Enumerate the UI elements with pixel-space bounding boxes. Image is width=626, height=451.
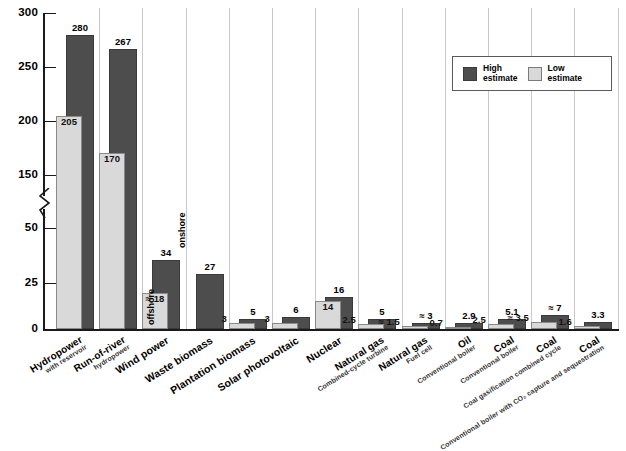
bar-value-label-high: 5 [250, 306, 255, 317]
chart-legend: High estimate Low estimate [452, 56, 612, 91]
legend-label-low-line2: estimate [548, 73, 583, 83]
bar-value-label-high: ≈ 7 [548, 302, 561, 313]
bar-value-label-low: 205 [61, 116, 77, 127]
legend-item-low: Low estimate [528, 64, 583, 83]
x-axis-category-label: Solar photovoltaic [215, 334, 301, 394]
axis-break-icon [36, 188, 54, 218]
bar-value-label-high: 267 [115, 36, 131, 47]
legend-item-high: High estimate [463, 64, 518, 83]
legend-swatch-high-icon [463, 67, 477, 81]
x-axis-category-labels: Hydropowerwith reservoirRun-of-riverhydr… [0, 330, 626, 432]
y-axis-tick-label: 50 [0, 221, 38, 233]
category-separator [142, 8, 143, 329]
y-axis-tick-label: 150 [0, 168, 38, 180]
bar-value-label-low: 170 [104, 153, 120, 164]
bar-value-label-low: 0.7 [429, 317, 443, 328]
bar-value-label-low: 14 [323, 301, 334, 312]
y-axis-tick-label: 200 [0, 114, 38, 126]
bar-low-estimate [99, 153, 125, 329]
category-separator [402, 8, 403, 329]
bar-value-label-low: 2.5 [342, 314, 356, 325]
bar-value-label-low: ≈ 3.5 [507, 312, 529, 323]
y-axis-tick-label: 250 [0, 60, 38, 72]
category-separator [186, 8, 187, 329]
bar-low-estimate [574, 326, 600, 329]
legend-label-low: Low estimate [548, 64, 583, 83]
legend-swatch-low-icon [528, 67, 542, 81]
bar-low-estimate [445, 327, 471, 329]
x-axis-baseline [43, 329, 619, 331]
bar-value-label-high: 3.3 [591, 309, 605, 320]
y-axis-tick-label: 25 [0, 276, 38, 288]
bar-low-estimate [402, 326, 428, 329]
bar-low-estimate [488, 324, 514, 329]
y-axis-spine [43, 13, 45, 196]
bar-low-estimate [531, 322, 557, 329]
y-axis-tick-label: 300 [0, 6, 38, 18]
bar-value-label-low: ≈ 1.5 [378, 316, 400, 327]
bar-low-estimate [56, 116, 82, 329]
annotation-onshore: onshore [177, 213, 187, 249]
category-separator [229, 8, 230, 329]
bar-value-label-high: 6 [293, 304, 298, 315]
legend-label-high-line1: High [483, 63, 502, 73]
bar-low-estimate [272, 323, 298, 329]
category-separator [315, 8, 316, 329]
bar-value-label-high: 34 [161, 247, 172, 258]
bar-value-label-low: 1.6 [558, 316, 572, 327]
bar-value-label-high: 16 [334, 284, 345, 295]
legend-label-high-line2: estimate [483, 73, 518, 83]
category-separator [618, 8, 619, 329]
bar-high-estimate [196, 274, 224, 329]
bar-low-estimate [229, 323, 255, 329]
category-separator [272, 8, 273, 329]
y-axis-spine [43, 209, 45, 330]
legend-label-low-line1: Low [548, 63, 565, 73]
bar-value-label-low: 3 [265, 313, 270, 324]
category-separator [358, 8, 359, 329]
annotation-offshore: offshore [146, 289, 156, 325]
bar-value-label-high: 27 [205, 261, 216, 272]
bar-value-label-low: 2.5 [472, 314, 486, 325]
bar-value-label-low: 3 [222, 313, 227, 324]
category-separator [445, 8, 446, 329]
bar-value-label-high: 280 [72, 22, 88, 33]
legend-label-high: High estimate [483, 64, 518, 83]
category-label-line1: Solar photovoltaic [215, 334, 301, 394]
